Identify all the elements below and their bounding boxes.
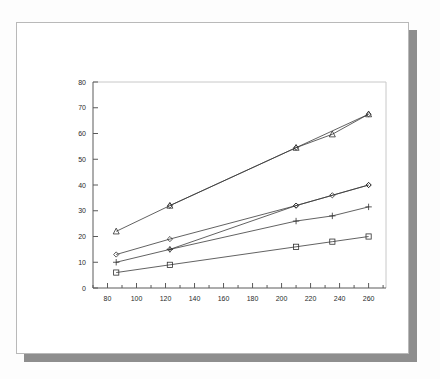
series-line-series-2	[170, 114, 369, 205]
y-tick-label: 0	[82, 285, 86, 292]
x-tick-label: 180	[247, 295, 259, 302]
y-tick-label: 70	[78, 104, 86, 111]
x-tick-label: 260	[363, 295, 375, 302]
x-tick-label: 160	[218, 295, 230, 302]
x-tick-label: 240	[334, 295, 346, 302]
x-tick-label: 140	[189, 295, 201, 302]
x-tick-label: 120	[160, 295, 172, 302]
page-root: 0102030405060708080100120140160180200220…	[0, 0, 440, 379]
y-tick-label: 40	[78, 182, 86, 189]
marker-diamond	[366, 182, 371, 187]
scanned-page-sheet: 0102030405060708080100120140160180200220…	[16, 22, 409, 354]
marker-plus	[329, 213, 335, 219]
y-tick-label: 20	[78, 233, 86, 240]
line-chart: 0102030405060708080100120140160180200220…	[17, 23, 410, 355]
marker-diamond	[114, 252, 119, 257]
y-tick-label: 30	[78, 207, 86, 214]
marker-plus	[293, 218, 299, 224]
y-tick-label: 80	[78, 79, 86, 86]
y-tick-label: 50	[78, 156, 86, 163]
x-tick-label: 80	[104, 295, 112, 302]
series-line-series-6	[116, 237, 368, 273]
series-line-series-4	[116, 207, 368, 262]
y-tick-label: 60	[78, 130, 86, 137]
y-tick-label: 10	[78, 259, 86, 266]
series-line-series-5	[170, 185, 369, 249]
x-tick-label: 100	[131, 295, 143, 302]
marker-plus	[365, 204, 371, 210]
marker-plus	[113, 259, 119, 265]
x-tick-label: 200	[276, 295, 288, 302]
x-tick-label: 220	[305, 295, 317, 302]
figure-area: 0102030405060708080100120140160180200220…	[17, 23, 410, 355]
marker-diamond	[366, 182, 371, 187]
